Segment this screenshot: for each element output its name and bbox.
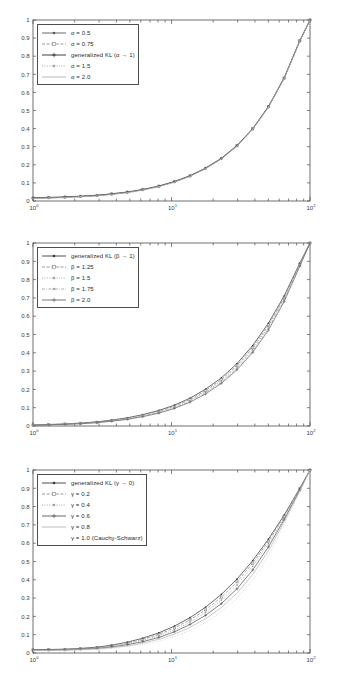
legend-item[interactable]: γ = 0.8: [40, 521, 143, 532]
y-tick-label: 0.3: [21, 368, 30, 374]
legend-line-sample: [40, 284, 68, 294]
y-tick-label: 1: [26, 17, 30, 23]
x-tick-label: 100: [30, 428, 40, 436]
y-tick-label: 0.7: [21, 522, 30, 528]
y-tick-label: 0.2: [21, 614, 30, 620]
legend-gamma: generalized KL (γ → 0)γ = 0.2γ = 0.4γ = …: [37, 474, 147, 546]
legend-item-label: generalized KL (β → 1): [71, 251, 135, 261]
y-tick-label: 0.9: [21, 486, 30, 492]
y-tick-label: 0.9: [21, 35, 30, 41]
legend-line-sample: [40, 478, 68, 488]
legend-item[interactable]: γ = 0.6: [40, 510, 143, 521]
chart-panel-beta: 00.10.20.30.40.50.60.70.80.91100101102 g…: [0, 230, 338, 455]
x-tick-label: 101: [168, 203, 178, 211]
legend-item[interactable]: α = 1.5: [40, 60, 135, 71]
figure-container: 00.10.20.30.40.50.60.70.80.91100101102 α…: [0, 0, 338, 679]
y-tick-label: 0.8: [21, 504, 30, 510]
series-marker: [268, 322, 270, 324]
series-marker: [205, 612, 207, 614]
series-marker: [268, 538, 270, 540]
legend-item-label: β = 1.25: [71, 262, 94, 272]
y-tick-label: 0.8: [21, 277, 30, 283]
legend-item[interactable]: β = 2.0: [40, 294, 135, 305]
y-tick-label: 0.6: [21, 313, 30, 319]
legend-sample-marker: [53, 64, 56, 67]
legend-item-label: γ = 0.8: [71, 522, 90, 532]
x-tick-label: 102: [307, 203, 317, 211]
legend-item[interactable]: γ = 1.0 (Cauchy-Schwarz): [40, 532, 143, 543]
legend-sample-marker: [53, 503, 56, 506]
legend-line-sample: [40, 28, 68, 38]
legend-line-sample: [40, 72, 68, 82]
x-tick-label: 102: [307, 428, 317, 436]
legend-item[interactable]: β = 1.75: [40, 283, 135, 294]
y-tick-label: 0.5: [21, 559, 30, 565]
x-tick-label: 100: [30, 655, 40, 663]
legend-item[interactable]: β = 1.25: [40, 261, 135, 272]
legend-line-sample: [40, 511, 68, 521]
legend-line-sample: [40, 262, 68, 272]
legend-item-label: generalized KL (α → 1): [71, 50, 135, 60]
legend-item-label: β = 1.5: [71, 273, 90, 283]
y-tick-label: 0.8: [21, 53, 30, 59]
series-marker: [189, 617, 191, 619]
legend-line-sample: [40, 533, 68, 543]
legend-line-sample: [40, 489, 68, 499]
y-tick-label: 0.4: [21, 577, 30, 583]
legend-sample-marker: [52, 42, 55, 45]
y-tick-label: 0.2: [21, 162, 30, 168]
legend-sample-marker: [52, 492, 55, 495]
legend-item-label: β = 2.0: [71, 295, 90, 305]
series-marker: [236, 584, 238, 586]
legend-item[interactable]: γ = 0.4: [40, 499, 143, 510]
legend-item[interactable]: generalized KL (α → 1): [40, 49, 135, 60]
series-marker: [205, 606, 207, 608]
series-marker: [268, 543, 270, 545]
chart-panel-gamma: 00.10.20.30.40.50.60.70.80.91100101102 g…: [0, 455, 338, 679]
series-marker: [220, 599, 222, 601]
legend-item[interactable]: α = 0.75: [40, 38, 135, 49]
legend-line-sample: [40, 61, 68, 71]
legend-sample-marker: [53, 481, 56, 484]
legend-item[interactable]: α = 0.5: [40, 27, 135, 38]
y-tick-label: 0.3: [21, 595, 30, 601]
legend-line-sample: [40, 500, 68, 510]
x-tick-label: 102: [307, 655, 317, 663]
legend-sample-marker: [53, 31, 56, 34]
legend-sample-marker: [53, 287, 56, 290]
y-tick-label: 0.3: [21, 144, 30, 150]
series-marker: [252, 348, 254, 350]
legend-line-sample: [40, 50, 68, 60]
y-tick-label: 0.7: [21, 72, 30, 78]
legend-sample-marker: [53, 276, 56, 279]
legend-line-sample: [40, 522, 68, 532]
x-tick-label: 101: [168, 428, 178, 436]
legend-line-sample: [40, 273, 68, 283]
legend-item[interactable]: β = 1.5: [40, 272, 135, 283]
legend-item-label: γ = 0.4: [71, 500, 90, 510]
legend-item[interactable]: generalized KL (β → 1): [40, 250, 135, 261]
y-tick-label: 0: [26, 650, 30, 656]
y-tick-label: 0.5: [21, 332, 30, 338]
legend-beta: generalized KL (β → 1)β = 1.25β = 1.5β =…: [37, 247, 139, 308]
y-tick-label: 0.6: [21, 540, 30, 546]
legend-item-label: γ = 0.6: [71, 511, 90, 521]
legend-item[interactable]: α = 2.0: [40, 71, 135, 82]
series-marker: [236, 578, 238, 580]
legend-line-sample: [40, 39, 68, 49]
y-tick-label: 0.1: [21, 180, 30, 186]
legend-item-label: generalized KL (γ → 0): [71, 478, 134, 488]
legend-item-label: β = 1.75: [71, 284, 94, 294]
y-tick-label: 0.4: [21, 350, 30, 356]
legend-item[interactable]: γ = 0.2: [40, 488, 143, 499]
legend-item[interactable]: generalized KL (γ → 0): [40, 477, 143, 488]
x-tick-label: 101: [168, 655, 178, 663]
y-tick-label: 1: [26, 467, 30, 473]
series-marker: [252, 560, 254, 562]
y-tick-label: 0.2: [21, 387, 30, 393]
y-tick-label: 0.7: [21, 295, 30, 301]
legend-line-sample: [40, 295, 68, 305]
y-tick-label: 0.1: [21, 405, 30, 411]
series-marker: [189, 621, 191, 623]
legend-sample-marker: [52, 265, 55, 268]
